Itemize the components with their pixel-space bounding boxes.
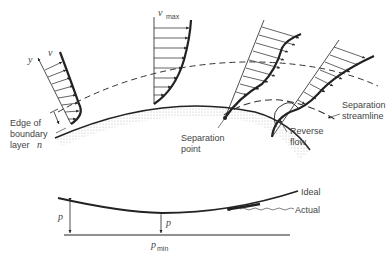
y-axis-symbol: y (27, 54, 33, 65)
boundary-layer-diagram: y v v max (0, 0, 391, 255)
vmax-symbol: v (158, 7, 163, 18)
label-ideal: Ideal (301, 187, 321, 197)
thickness-indicator (50, 109, 59, 124)
p-min-symbol: p (150, 239, 156, 250)
label-separation-streamline-2: streamline (342, 111, 384, 121)
label-separation-point-1: Separation (181, 133, 225, 143)
normal-symbol: n (37, 139, 42, 150)
p-left-symbol: p (57, 211, 63, 222)
p-min-subscript: min (157, 245, 168, 252)
separation-point-leader (218, 118, 225, 128)
velocity-profile-separation (225, 20, 301, 118)
velocity-profile-1 (38, 52, 81, 124)
label-reverse-flow-1: Reverse (290, 126, 324, 136)
p-mid-symbol: p (165, 217, 171, 228)
label-separation-point-2: point (181, 144, 201, 154)
label-edge-of-boundary-layer-1: Edge of (10, 118, 42, 128)
departure-point (227, 207, 231, 211)
label-separation-streamline-1: Separation (342, 100, 386, 110)
label-edge-of-boundary-layer-2: boundary (10, 129, 48, 139)
vmax-subscript: max (166, 13, 180, 20)
label-reverse-flow-2: flow (290, 137, 307, 147)
velocity-symbol: v (48, 47, 53, 58)
label-actual: Actual (295, 205, 320, 215)
edge-leader (56, 128, 66, 133)
pressure-panel (58, 191, 298, 235)
boundary-layer-edge-dashed (58, 62, 378, 112)
label-edge-of-boundary-layer-3: layer (10, 140, 30, 150)
velocity-profile-reverse (272, 40, 374, 137)
velocity-profile-max (154, 17, 191, 104)
actual-leader-wavy (240, 208, 294, 210)
